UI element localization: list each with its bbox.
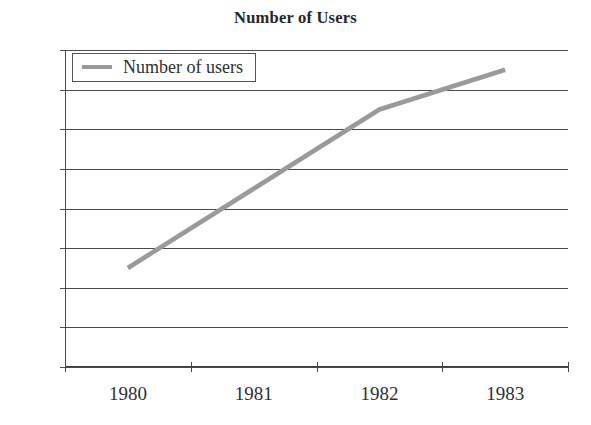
- x-axis-tick-label: 1982: [319, 383, 439, 405]
- legend-item-label: Number of users: [123, 58, 243, 76]
- chart-legend: Number of users: [72, 53, 256, 82]
- x-axis-tick-label: 1980: [68, 383, 188, 405]
- series-line-group: [65, 50, 568, 367]
- line-swatch-icon: [82, 65, 112, 69]
- plot-area: 01020304050607080 1980198119821983 Numbe…: [65, 50, 568, 367]
- x-axis-tick-mark: [568, 362, 569, 372]
- line-chart: Number of Users 01020304050607080 198019…: [0, 0, 591, 425]
- x-axis-tick-label: 1981: [194, 383, 314, 405]
- series-line-number-of-users: [128, 70, 505, 268]
- chart-title: Number of Users: [0, 8, 591, 28]
- x-axis-tick-label: 1983: [445, 383, 565, 405]
